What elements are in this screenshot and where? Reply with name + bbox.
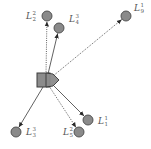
label-subscript: 5 [70,132,74,138]
label-base: L [97,116,104,126]
landmark-node-L5_2 [74,127,84,137]
edge-L5_2 [49,86,76,127]
landmark-node-L3_3 [11,127,21,137]
label-base: L [25,11,32,21]
edge-L3_3 [19,87,43,127]
label-base: L [68,14,75,24]
label-subscript: 1 [105,121,109,127]
label-subscript: 3 [33,132,37,138]
landmark-diagram: L22L34L19L11L25L33 [0,0,151,149]
landmark-label-L3_3: L [25,127,32,137]
landmark-node-L9_1 [121,11,131,21]
label-subscript: 9 [141,8,145,14]
edge-L2_2 [46,21,47,74]
landmark-label-L4_3: L [68,14,75,24]
landmark-label-L1_1: L [97,116,104,126]
landmark-node-L1_1 [83,115,93,125]
label-base: L [62,127,69,137]
robot [37,73,59,87]
landmark-node-L4_3 [54,23,64,33]
landmark-label-L9_1: L [133,3,140,13]
landmark-label-L5_2: L [62,127,69,137]
label-subscript: 2 [33,16,37,22]
label-base: L [133,3,140,13]
edge-L4_3 [48,33,58,74]
label-base: L [25,127,32,137]
landmark-label-L2_2: L [25,11,32,21]
robot-pentagon [46,73,59,87]
landmark-node-L2_2 [42,11,52,21]
edge-L1_1 [52,84,84,116]
label-subscript: 4 [76,19,80,25]
